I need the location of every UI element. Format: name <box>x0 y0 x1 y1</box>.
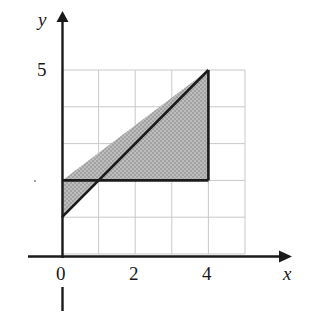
x-axis-tick-label-0: 0 <box>56 264 66 283</box>
x-axis <box>28 251 292 263</box>
x-axis-tick-label-4: 4 <box>202 264 212 283</box>
scan-speck <box>34 180 36 182</box>
x-axis-arrowhead-icon <box>279 251 292 263</box>
y-axis-arrowhead-icon <box>57 11 69 22</box>
y-axis-label: y <box>38 10 46 29</box>
x-axis-tick-label-2: 2 <box>129 264 139 283</box>
coordinate-plot <box>0 0 312 321</box>
figure-root: y x 5 0 2 4 <box>0 0 312 321</box>
y-axis-tick-label-5: 5 <box>37 60 47 79</box>
x-axis-label: x <box>283 264 291 283</box>
